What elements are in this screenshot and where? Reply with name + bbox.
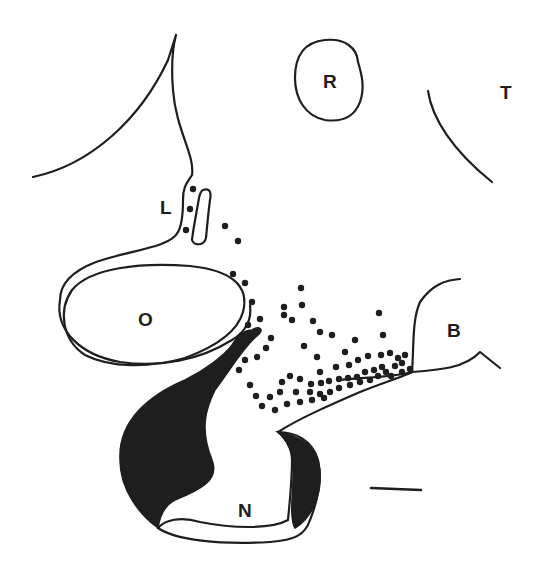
stipple-dot xyxy=(321,395,327,401)
stipple-dot xyxy=(242,280,248,286)
stipple-dot xyxy=(383,369,389,375)
label-t: T xyxy=(500,82,512,103)
stipple-dot xyxy=(375,373,381,379)
stipple-dot xyxy=(230,271,236,277)
stipple-dot xyxy=(317,329,323,335)
stipple-dot xyxy=(392,363,398,369)
stipple-dot xyxy=(235,238,241,244)
stipple-dot xyxy=(407,366,413,372)
label-n: N xyxy=(238,500,252,521)
stipple-dot xyxy=(279,379,285,385)
stipple-dot xyxy=(395,355,401,361)
stipple-dot xyxy=(371,367,377,373)
label-b: B xyxy=(447,320,461,341)
label-o: O xyxy=(138,309,153,330)
stipple-dot xyxy=(336,385,342,391)
stipple-dot xyxy=(287,373,293,379)
stipple-dot xyxy=(222,223,228,229)
stipple-dot xyxy=(380,332,386,338)
stipple-dot xyxy=(247,382,253,388)
stipple-dot xyxy=(297,399,303,405)
stipple-dot xyxy=(379,364,385,370)
stipple-dot xyxy=(326,378,332,384)
stipple-dot xyxy=(342,349,348,355)
stipple-dot xyxy=(402,352,408,358)
stipple-dot xyxy=(298,285,304,291)
stipple-dot xyxy=(347,382,353,388)
stipple-dot xyxy=(307,389,313,395)
stipple-dot xyxy=(281,304,287,310)
label-r: R xyxy=(323,71,337,92)
stipple-dot xyxy=(378,352,384,358)
stipple-dot xyxy=(399,360,405,366)
stipple-dot xyxy=(301,343,307,349)
stipple-dot xyxy=(376,310,382,316)
stipple-dot xyxy=(293,389,299,395)
upper-left-contour xyxy=(33,35,192,300)
stipple-dot xyxy=(345,375,351,381)
stipple-dot xyxy=(249,299,255,305)
stipple-dot xyxy=(362,369,368,375)
n-right-crescent-fill xyxy=(278,432,320,528)
o-region-outline xyxy=(64,265,244,365)
stipple-dot xyxy=(187,206,193,212)
stipple-dot xyxy=(329,332,335,338)
stipple-dot xyxy=(308,381,314,387)
stipple-dot xyxy=(284,401,290,407)
b-region-outline xyxy=(337,279,500,380)
anatomical-diagram: L R T O B N xyxy=(0,0,552,575)
stipple-dot xyxy=(267,394,273,400)
stipple-dot xyxy=(277,389,283,395)
stipple-dot xyxy=(183,227,189,233)
stipple-dot xyxy=(318,380,324,386)
stipple-dot xyxy=(272,407,278,413)
stipple-dot xyxy=(257,316,263,322)
stipple-dot xyxy=(254,354,260,360)
stipple-dot xyxy=(355,357,361,363)
stipple-dot xyxy=(259,403,265,409)
stipple-dot xyxy=(346,362,352,368)
stipple-dot xyxy=(245,322,251,328)
stipple-dot xyxy=(253,393,259,399)
stipple-dot xyxy=(314,354,320,360)
stipple-dot xyxy=(299,302,305,308)
stipple-dot xyxy=(367,377,373,383)
stipple-dot xyxy=(310,318,316,324)
stipple-dot xyxy=(357,379,363,385)
t-boundary-curve xyxy=(428,91,492,182)
stipple-dot xyxy=(388,373,394,379)
stipple-dot xyxy=(309,397,315,403)
stipple-dot xyxy=(297,376,303,382)
stipple-dot xyxy=(236,367,242,373)
stipple-dot xyxy=(336,376,342,382)
stipple-dot xyxy=(281,312,287,318)
stipple-dot xyxy=(333,364,339,370)
label-l: L xyxy=(160,197,172,218)
stipple-dot xyxy=(387,350,393,356)
stipple-dot xyxy=(242,357,248,363)
stipple-dot xyxy=(317,369,323,375)
stipple-dot xyxy=(352,337,358,343)
stipple-dot xyxy=(289,317,295,323)
stipple-dot xyxy=(365,353,371,359)
stipple-dot xyxy=(399,369,405,375)
stipple-dot xyxy=(263,345,269,351)
stipple-dot xyxy=(268,335,274,341)
scale-bar xyxy=(371,488,421,490)
l-structure-outline xyxy=(192,189,211,244)
o-outer-contour xyxy=(59,300,250,364)
stipple-dot xyxy=(327,389,333,395)
stipple-dot xyxy=(190,186,196,192)
